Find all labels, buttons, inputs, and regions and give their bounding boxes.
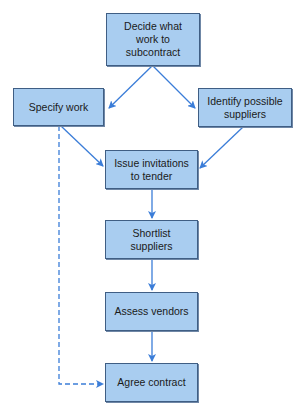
node-label: Agree contract: [117, 376, 185, 389]
node-label-line: to tender: [114, 170, 189, 183]
node-label: Specify work: [29, 101, 89, 114]
node-agree-contract: Agree contract: [105, 363, 198, 402]
arrow-identify-to-issue: [200, 127, 243, 168]
node-assess-vendors: Assess vendors: [105, 292, 198, 331]
node-issue-invitations-to-tender: Issue invitations to tender: [105, 150, 198, 189]
node-label-line: suppliers: [130, 240, 172, 253]
node-label-line: subcontract: [124, 46, 182, 59]
arrow-decide-to-specify: [109, 66, 152, 108]
dashed-arrow-specify-to-agree: [59, 126, 103, 384]
node-decide-what-work-to-subcontract: Decide what work to subcontract: [106, 13, 200, 66]
node-label-line: Issue invitations: [114, 157, 189, 170]
arrow-specify-to-issue: [61, 126, 103, 166]
node-label-line: suppliers: [207, 108, 282, 121]
node-label-line: Decide what: [124, 20, 182, 33]
node-label-line: Shortlist: [130, 227, 172, 240]
node-identify-possible-suppliers: Identify possible suppliers: [198, 88, 292, 127]
node-label: Assess vendors: [114, 305, 188, 318]
arrow-decide-to-identify: [153, 66, 195, 108]
node-label-line: Identify possible: [207, 95, 282, 108]
node-shortlist-suppliers: Shortlist suppliers: [105, 220, 198, 259]
node-specify-work: Specify work: [13, 88, 104, 126]
node-label-line: work to: [124, 33, 182, 46]
